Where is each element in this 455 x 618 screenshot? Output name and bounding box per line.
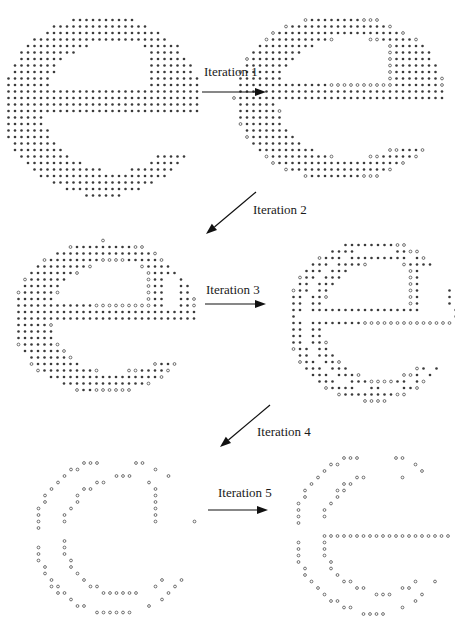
dot-pattern-icon: [10, 232, 195, 392]
dot-pattern-icon: [285, 230, 455, 400]
arrow-icon: [194, 84, 274, 100]
arrow-icon: [197, 296, 274, 312]
dot-pattern-icon: [290, 443, 452, 613]
letter-e-panel-after-2: [10, 232, 195, 392]
dot-pattern-icon: [0, 5, 200, 195]
letter-e-panel-after-5: [290, 443, 452, 613]
arrow-icon: [200, 502, 276, 518]
dot-pattern-icon: [30, 448, 195, 613]
arrow-icon: [212, 397, 278, 455]
letter-e-panel-original: [0, 5, 200, 195]
letter-e-panel-after-3: [285, 230, 455, 400]
iteration-label-1: Iteration 1: [204, 64, 258, 80]
arrow-icon: [198, 184, 264, 242]
letter-e-panel-after-4: [30, 448, 195, 613]
caption-clipped: [0, 612, 454, 618]
iteration-label-5: Iteration 5: [218, 485, 272, 501]
